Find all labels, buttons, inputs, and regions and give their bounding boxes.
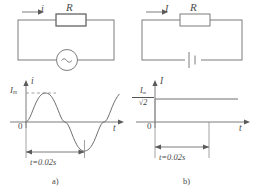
- panel-a: i R i t 0 Im t=0.02s a): [0, 0, 128, 195]
- graph-a-x-arrow-icon: [118, 119, 124, 124]
- dc-current-label: I: [165, 4, 168, 14]
- graph-a-peak-label-sub: m: [13, 89, 17, 95]
- panel-b-caption: b): [183, 176, 190, 186]
- battery-gap: [185, 57, 201, 63]
- graph-b-level-numerator: Im: [132, 87, 154, 96]
- graph-b-level-fraction: Im √2: [132, 87, 154, 107]
- figure-container: i R i t 0 Im t=0.02s a): [0, 0, 256, 195]
- graph-a-period-label: t=0.02s: [30, 158, 56, 167]
- graph-b-y-arrow-icon: [152, 80, 157, 86]
- graph-a-x-axis-label: t: [113, 124, 116, 134]
- graph-b-period-label: t=0.02s: [159, 153, 185, 162]
- graph-b-level-numerator-sub: m: [143, 90, 147, 95]
- graph-b-x-arrow-icon: [244, 119, 250, 124]
- graph-a-origin-label: 0: [18, 122, 23, 131]
- graph-b-y-axis-label: I: [160, 77, 163, 87]
- ac-source-icon: [56, 50, 78, 71]
- graph-b-level-denominator: √2: [132, 99, 154, 107]
- graph-b-origin-label: 0: [147, 122, 152, 131]
- graph-a-peak-label: Im: [10, 86, 17, 96]
- panel-b: I R I t 0 Im √2 t=0.02s b): [128, 0, 256, 195]
- graph-a-y-axis-label: i: [31, 77, 34, 87]
- panel-a-drawing: [0, 0, 128, 195]
- graph-b-x-axis-label: t: [239, 124, 242, 134]
- graph-a-y-arrow-icon: [23, 80, 28, 86]
- panel-a-caption: a): [52, 176, 59, 186]
- resistor-label-a: R: [66, 2, 73, 13]
- resistor-label-b: R: [190, 2, 197, 13]
- resistor-body-b: [180, 14, 210, 26]
- ac-current-label: i: [41, 4, 44, 14]
